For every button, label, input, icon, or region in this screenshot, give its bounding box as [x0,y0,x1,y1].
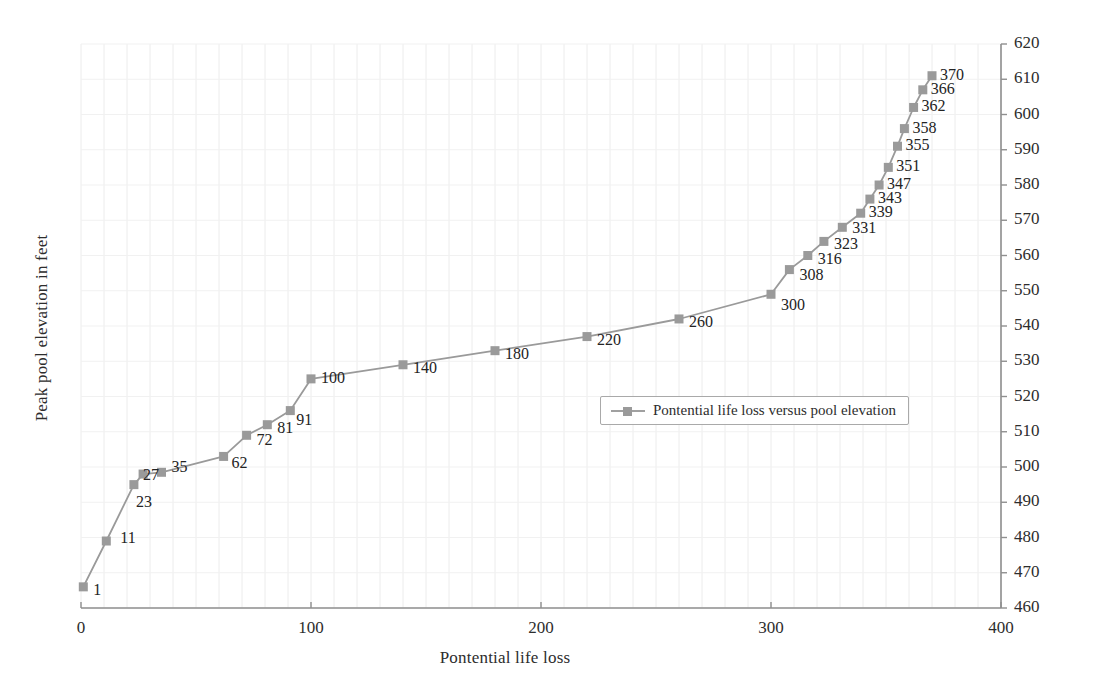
data-point-label: 347 [887,175,911,193]
data-series-markers [79,71,937,591]
legend-entry-label: Pontential life loss versus pool elevati… [653,403,896,418]
data-point-label: 11 [120,529,135,547]
data-point-label: 358 [912,119,936,137]
data-point-label: 81 [277,419,293,437]
y-tick-label: 570 [1014,209,1040,229]
y-tick-label: 520 [1014,386,1040,406]
y-tick-label: 470 [1014,562,1040,582]
data-series-line [83,76,932,587]
data-point-label: 355 [906,136,930,154]
y-tick-label: 610 [1014,68,1040,88]
data-point-label: 100 [321,369,345,387]
y-tick-label: 480 [1014,527,1040,547]
y-tick-label: 530 [1014,350,1040,370]
data-point-label: 180 [505,345,529,363]
data-point-label: 362 [922,97,946,115]
data-point-label: 72 [257,431,273,449]
y-axis-title: Peak pool elevation in feet [32,178,52,478]
y-tick-label: 560 [1014,245,1040,265]
data-point-label: 27 [143,466,159,484]
x-tick-label: 400 [971,618,1031,638]
data-point-label: 308 [799,266,823,284]
data-point-label: 1 [93,581,101,599]
data-point-label: 370 [940,66,964,84]
data-point-label: 91 [296,411,312,429]
x-axis-title: Pontential life loss [0,648,1010,668]
data-point-label: 260 [689,313,713,331]
data-point-label: 351 [896,157,920,175]
x-tick-label: 100 [281,618,341,638]
chart-legend[interactable]: Pontential life loss versus pool elevati… [600,396,909,425]
y-tick-label: 510 [1014,421,1040,441]
chart-container: Peak pool elevation in feet Pontential l… [0,0,1100,690]
data-point-label: 62 [232,454,248,472]
x-tick-label: 300 [741,618,801,638]
data-point-label: 331 [852,219,876,237]
data-point-label: 300 [781,296,805,314]
data-point-label: 220 [597,331,621,349]
y-tick-label: 540 [1014,315,1040,335]
y-tick-label: 600 [1014,104,1040,124]
y-tick-label: 550 [1014,280,1040,300]
legend-marker-icon [611,405,645,417]
data-point-label: 23 [136,493,152,511]
y-tick-label: 490 [1014,491,1040,511]
x-tick-label: 200 [511,618,571,638]
data-point-label: 323 [834,235,858,253]
data-point-label: 35 [172,458,188,476]
data-point-label: 140 [413,359,437,377]
x-tick-label: 0 [51,618,111,638]
y-tick-label: 460 [1014,597,1040,617]
y-tick-label: 620 [1014,33,1040,53]
y-tick-label: 500 [1014,456,1040,476]
y-tick-label: 580 [1014,174,1040,194]
y-tick-label: 590 [1014,139,1040,159]
